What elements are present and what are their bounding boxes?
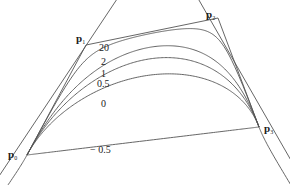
point-label-p2: p2 [206, 8, 215, 21]
point-label-p3: p3 [264, 122, 273, 135]
point-label-p0: p0 [8, 148, 17, 161]
weight-label-neg-0-5: − 0.5 [90, 144, 111, 155]
control-polygon [27, 18, 259, 155]
bezier-curve [27, 29, 259, 155]
bezier-curve [27, 58, 259, 155]
bezier-curve [27, 46, 259, 155]
bezier-diagram: p0 p1 p2 p3 20 2 1 0.5 0 − 0.5 [0, 0, 290, 185]
weight-label-0: 0 [101, 98, 106, 109]
bezier-curve [27, 74, 259, 155]
weight-label-2: 2 [101, 56, 106, 67]
bezier-curve [27, 127, 259, 155]
point-label-p1: p1 [76, 32, 85, 45]
weight-label-20: 20 [99, 42, 109, 53]
weight-label-0-5: 0.5 [97, 78, 110, 89]
